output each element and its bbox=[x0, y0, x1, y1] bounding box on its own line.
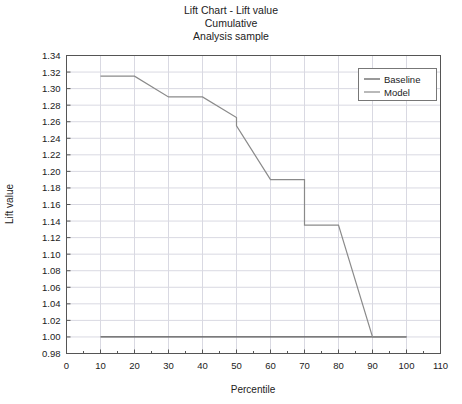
y-tick-label: 1.00 bbox=[42, 331, 61, 342]
x-tick-label: 20 bbox=[129, 360, 140, 371]
x-tick-label: 30 bbox=[163, 360, 174, 371]
x-tick-label: 110 bbox=[433, 360, 448, 371]
x-tick-label: 50 bbox=[231, 360, 242, 371]
x-tick-label: 70 bbox=[299, 360, 310, 371]
chart-title: Lift Chart - Lift value bbox=[184, 4, 278, 16]
legend-label-baseline: Baseline bbox=[384, 74, 420, 85]
x-tick-label: 80 bbox=[333, 360, 344, 371]
x-tick-label: 40 bbox=[197, 360, 208, 371]
y-tick-label: 1.30 bbox=[42, 83, 61, 94]
x-tick-label: 0 bbox=[64, 360, 69, 371]
y-tick-label: 1.32 bbox=[42, 67, 61, 78]
x-tick-label: 100 bbox=[399, 360, 415, 371]
y-tick-label: 1.04 bbox=[42, 298, 61, 309]
y-tick-label: 0.98 bbox=[42, 348, 61, 359]
y-tick-label: 1.16 bbox=[42, 199, 61, 210]
x-tick-label: 10 bbox=[95, 360, 106, 371]
y-tick-label: 1.28 bbox=[42, 100, 61, 111]
y-tick-label: 1.20 bbox=[42, 166, 61, 177]
y-tick-label: 1.02 bbox=[42, 315, 61, 326]
chart-subtitle: Cumulative bbox=[205, 17, 258, 29]
y-axis-title: Lift value bbox=[4, 184, 15, 224]
x-tick-label: 60 bbox=[265, 360, 276, 371]
y-tick-label: 1.22 bbox=[42, 149, 61, 160]
y-tick-label: 1.18 bbox=[42, 182, 61, 193]
y-tick-label: 1.10 bbox=[42, 249, 61, 260]
chart-subtitle-2: Analysis sample bbox=[193, 30, 269, 42]
lift-chart: Lift Chart - Lift value Cumulative Analy… bbox=[0, 0, 462, 404]
chart-legend: Baseline Model bbox=[359, 69, 437, 101]
y-tick-label: 1.08 bbox=[42, 265, 61, 276]
y-tick-label: 1.24 bbox=[42, 133, 61, 144]
x-axis-title: Percentile bbox=[231, 384, 276, 395]
x-tick-label: 90 bbox=[367, 360, 378, 371]
chart-background bbox=[0, 0, 462, 404]
y-tick-label: 1.26 bbox=[42, 116, 61, 127]
y-tick-label: 1.34 bbox=[42, 50, 61, 61]
y-tick-label: 1.06 bbox=[42, 282, 61, 293]
legend-label-model: Model bbox=[384, 87, 410, 98]
y-tick-label: 1.14 bbox=[42, 216, 61, 227]
y-tick-label: 1.12 bbox=[42, 232, 61, 243]
